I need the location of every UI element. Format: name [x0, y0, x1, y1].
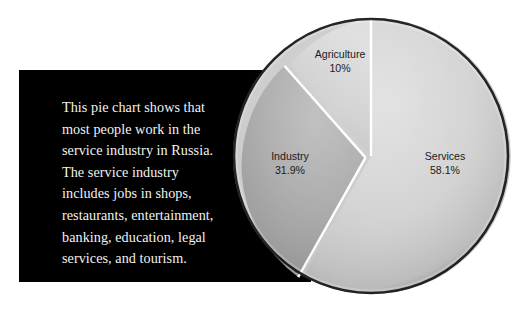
slice-label-agriculture-value: 10% [329, 62, 351, 74]
slice-label-industry-value: 31.9% [275, 164, 306, 176]
slice-label-industry-name: Industry [271, 150, 309, 162]
slice-label-services-value: 58.1% [430, 164, 461, 176]
caption-text: This pie chart shows that most people wo… [62, 97, 248, 270]
slice-label-agriculture-name: Agriculture [315, 48, 366, 60]
slice-label-services-name: Services [425, 150, 466, 162]
pie-chart-figure: This pie chart shows that most people wo… [0, 0, 526, 313]
pie-chart: Agriculture 10% Industry 31.9% Services … [230, 11, 514, 303]
pie-chart-svg: Agriculture 10% Industry 31.9% Services … [230, 11, 514, 303]
